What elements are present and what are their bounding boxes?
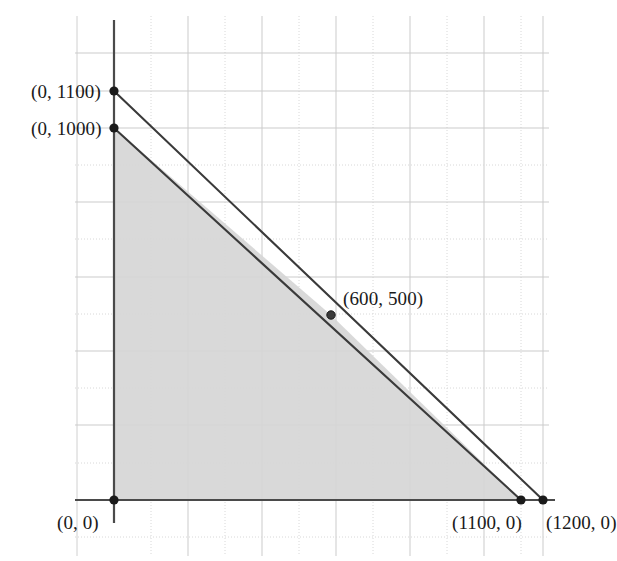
feasible-region-figure: (0, 1100) (0, 1000) (600, 500) (0, 0) (1… — [0, 0, 617, 561]
point-label-0-1000: (0, 1000) — [31, 119, 102, 138]
point-0-1000 — [109, 123, 118, 132]
point-1200-0 — [538, 495, 547, 504]
point-600-500 — [327, 311, 335, 319]
point-label-0-0: (0, 0) — [57, 513, 99, 532]
point-label-1200-0: (1200, 0) — [546, 513, 617, 532]
point-1100-0 — [516, 495, 525, 504]
point-label-0-1100: (0, 1100) — [31, 82, 101, 101]
point-0-0 — [109, 495, 118, 504]
point-label-600-500: (600, 500) — [343, 289, 423, 308]
point-label-1100-0: (1100, 0) — [452, 513, 522, 532]
point-0-1100 — [109, 86, 118, 95]
